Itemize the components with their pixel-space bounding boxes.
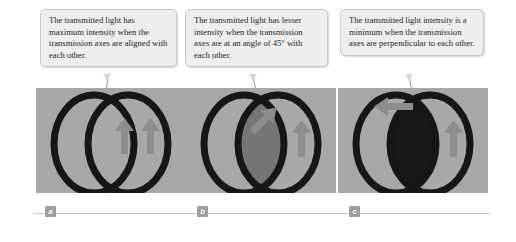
panel-label-b: b	[197, 206, 208, 217]
polarizer-pair-b	[186, 88, 336, 193]
panel-rule-a	[34, 213, 186, 214]
polarization-figure: Henry Leap and Jim Lehman The transmitte…	[0, 0, 516, 242]
panel-label-row-b: b	[186, 206, 338, 220]
callout-text-a: The transmitted light has maximum intens…	[49, 15, 169, 61]
callout-box-a: The transmitted light has maximum intens…	[40, 9, 177, 67]
panel-label-row-c: c	[338, 206, 490, 220]
panel-rule-c	[338, 213, 490, 214]
axis-arrow-vertical-b	[292, 120, 311, 157]
callout-box-c: The transmitted light intensity is a min…	[340, 9, 484, 56]
panel-rule-b	[186, 213, 338, 214]
callout-text-b: The transmitted light has lesser intensi…	[194, 15, 320, 61]
callout-text-c: The transmitted light intensity is a min…	[349, 15, 476, 50]
polarizer-pair-c	[338, 88, 488, 193]
callout-box-b: The transmitted light has lesser intensi…	[185, 9, 328, 67]
photo-panel-b	[186, 88, 336, 193]
polarizer-pair-a	[36, 88, 186, 193]
photo-panel-a	[36, 88, 186, 193]
photo-panel-c	[338, 88, 488, 193]
panel-label-row-a: a	[34, 206, 186, 220]
axis-arrow-vertical-c	[444, 120, 463, 157]
panel-label-a: a	[45, 206, 56, 217]
panel-label-c: c	[349, 206, 360, 217]
axis-arrow-right-a	[141, 118, 160, 154]
